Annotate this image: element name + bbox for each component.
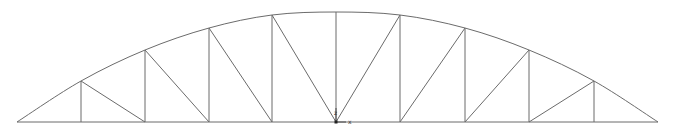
diagonal-member xyxy=(336,15,400,122)
diagonal-member xyxy=(81,81,145,122)
diagonal-member xyxy=(400,28,465,122)
diagonal-member xyxy=(465,50,529,122)
truss-diagram: z x xyxy=(0,0,675,129)
diagonal-member xyxy=(209,28,272,122)
diagonal-member xyxy=(272,15,336,122)
top-chord-arch xyxy=(17,12,658,122)
diagonal-members xyxy=(81,15,594,122)
top-chord-arch-line xyxy=(17,12,658,122)
origin-marker xyxy=(335,121,338,124)
vertical-members xyxy=(81,12,594,122)
z-axis-label: z xyxy=(334,109,337,116)
diagonal-member xyxy=(145,50,209,122)
x-axis-label: x xyxy=(348,118,352,125)
diagonal-member xyxy=(529,81,594,122)
truss-drawing: z x xyxy=(0,0,675,129)
